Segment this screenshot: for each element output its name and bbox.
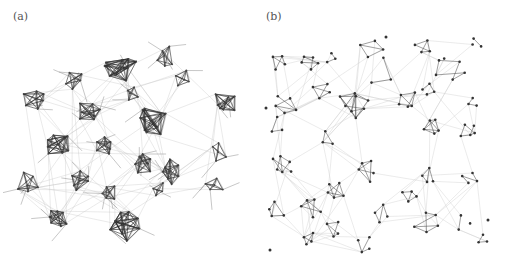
panel-a: (a): [0, 0, 252, 268]
network-graph-spread: [252, 0, 504, 268]
network-graph-clustered: [0, 0, 252, 268]
panel-b: (b): [252, 0, 504, 268]
